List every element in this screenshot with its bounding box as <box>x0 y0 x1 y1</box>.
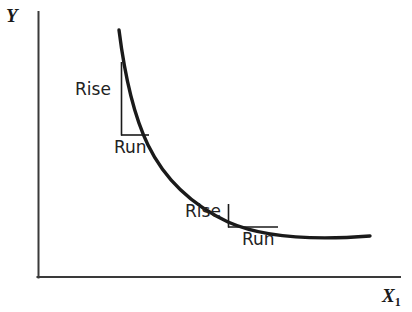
run-label-steep: Run <box>114 139 147 156</box>
rise-label-shallow: Rise <box>185 203 221 220</box>
x-axis-label-letter: X <box>382 285 395 306</box>
figure-background <box>0 0 412 312</box>
rise-over-run-figure <box>0 0 412 312</box>
rise-label-steep: Rise <box>75 81 111 98</box>
x-axis-label: X1 <box>382 286 401 305</box>
y-axis-label: Y <box>6 6 18 25</box>
run-label-shallow: Run <box>242 231 275 248</box>
x-axis-label-subscript: 1 <box>395 295 401 309</box>
